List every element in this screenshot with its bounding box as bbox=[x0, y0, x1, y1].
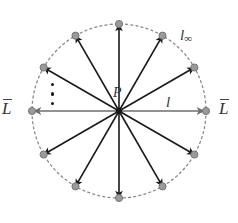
node-030 bbox=[191, 64, 198, 71]
node-240 bbox=[72, 183, 79, 190]
ray-240 bbox=[76, 111, 120, 186]
ray-030 bbox=[119, 68, 194, 112]
node-270 bbox=[115, 194, 122, 201]
label-point-P: P bbox=[113, 86, 122, 100]
ray-210 bbox=[44, 111, 119, 155]
node-060 bbox=[159, 32, 166, 39]
ray-300 bbox=[119, 111, 163, 186]
label-endpoint-right-text: L bbox=[219, 100, 228, 117]
ray-330 bbox=[119, 111, 194, 155]
label-line-l: l bbox=[166, 95, 170, 110]
label-endpoint-left: L bbox=[2, 100, 11, 117]
node-210 bbox=[40, 151, 47, 158]
node-090 bbox=[115, 20, 122, 27]
node-300 bbox=[159, 183, 166, 190]
node-150 bbox=[40, 64, 47, 71]
ellipsis-omitted-rays bbox=[51, 83, 56, 109]
node-180 bbox=[28, 107, 35, 114]
ellipsis-dot bbox=[51, 102, 54, 105]
projective-pencil-diagram: L L l∞ l P bbox=[0, 0, 238, 223]
ray-060 bbox=[119, 36, 163, 111]
node-000 bbox=[202, 107, 209, 114]
node-330 bbox=[191, 151, 198, 158]
label-endpoint-right: L bbox=[219, 100, 228, 117]
node-120 bbox=[72, 32, 79, 39]
diagram-canvas bbox=[0, 0, 238, 223]
ellipsis-dot bbox=[51, 83, 54, 86]
label-endpoint-left-text: L bbox=[2, 100, 11, 117]
label-line-at-infinity: l∞ bbox=[180, 28, 192, 44]
center-point-P bbox=[116, 108, 122, 114]
ellipsis-dot bbox=[51, 92, 54, 95]
label-line-at-infinity-subscript: ∞ bbox=[184, 32, 191, 44]
